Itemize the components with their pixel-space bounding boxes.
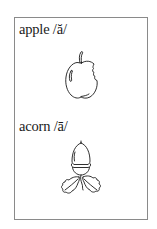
phonics-card: apple /ă/ acorn /ā/ bbox=[14, 17, 148, 220]
entry-label-apple: apple /ă/ bbox=[19, 22, 67, 37]
acorn-icon bbox=[53, 140, 111, 198]
entry-label-acorn: acorn /ā/ bbox=[19, 119, 68, 134]
apple-icon bbox=[64, 49, 106, 101]
